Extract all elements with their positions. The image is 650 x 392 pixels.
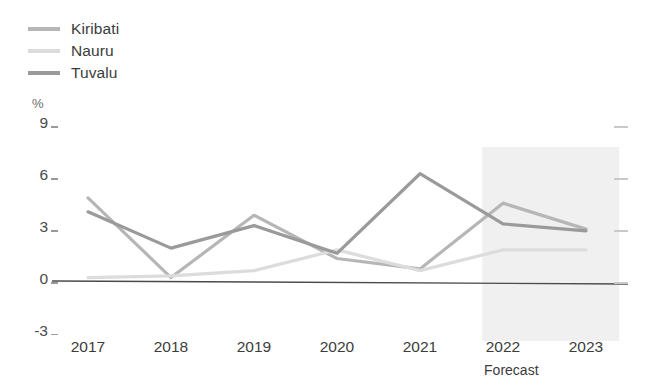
y-axis-label-neg3: -3 <box>18 322 48 340</box>
line-chart: Kiribati Nauru Tuvalu % 9630-32017201820… <box>0 0 650 392</box>
y-tick-left <box>51 126 58 128</box>
forecast-caption: Forecast <box>461 362 561 378</box>
plot-area <box>0 0 650 392</box>
y-tick-right <box>614 126 628 128</box>
x-axis-label-2023: 2023 <box>556 338 616 356</box>
x-axis-label-2022: 2022 <box>473 338 533 356</box>
y-tick-left <box>51 230 58 232</box>
x-axis-label-2018: 2018 <box>141 338 201 356</box>
y-tick-left <box>51 178 58 180</box>
y-tick-right <box>614 282 628 284</box>
forecast-band <box>482 147 619 341</box>
y-tick-left <box>51 334 58 336</box>
x-axis-label-2017: 2017 <box>58 338 118 356</box>
y-axis-label-9: 9 <box>18 114 48 132</box>
x-axis-label-2021: 2021 <box>390 338 450 356</box>
y-tick-right <box>614 230 628 232</box>
y-axis-label-6: 6 <box>18 166 48 184</box>
x-axis-label-2020: 2020 <box>307 338 367 356</box>
y-tick-right <box>614 178 628 180</box>
y-axis-label-0: 0 <box>18 270 48 288</box>
y-axis-label-3: 3 <box>18 218 48 236</box>
y-tick-left <box>51 282 58 284</box>
x-axis-label-2019: 2019 <box>224 338 284 356</box>
